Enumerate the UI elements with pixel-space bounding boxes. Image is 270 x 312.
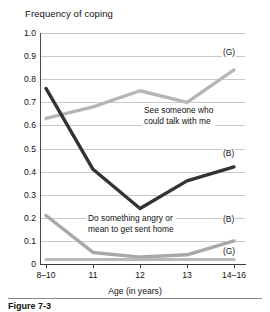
x-tick-mark-0 — [46, 264, 47, 268]
x-tick-mark-4 — [234, 264, 235, 268]
x-tick-label-1: 11 — [89, 270, 98, 280]
series-end-label-g-top: (G) — [222, 47, 236, 57]
x-tick-label-0: 8–10 — [36, 270, 55, 280]
caption-divider — [8, 298, 262, 299]
x-tick-mark-2 — [140, 264, 141, 268]
annotation-do-something-angry-line1: Do something angry or — [88, 213, 174, 224]
figure-caption: Figure 7-3 — [8, 301, 262, 311]
x-axis-label: Age (in years) — [0, 286, 270, 296]
x-tick-label-3: 13 — [182, 270, 192, 280]
annotation-see-someone-line2: could talk with me — [144, 116, 213, 127]
x-tick-label-2: 12 — [135, 270, 145, 280]
annotation-see-someone: See someone who could talk with me — [142, 104, 215, 127]
x-tick-mark-1 — [93, 264, 94, 268]
x-tick-mark-3 — [187, 264, 188, 268]
series-end-label-g-bottom: (G) — [222, 246, 236, 256]
series-end-label-b-bottom: (B) — [222, 214, 235, 224]
series-end-label-b-top: (B) — [222, 148, 235, 158]
annotation-see-someone-line1: See someone who — [144, 105, 213, 116]
annotation-do-something-angry: Do something angry or mean to get sent h… — [86, 212, 176, 235]
annotation-do-something-angry-line2: mean to get sent home — [88, 224, 174, 235]
figure-container: Frequency of coping 0 0.1 0.2 0.3 0.4 0.… — [0, 0, 270, 312]
x-tick-label-4: 14–16 — [222, 270, 246, 280]
